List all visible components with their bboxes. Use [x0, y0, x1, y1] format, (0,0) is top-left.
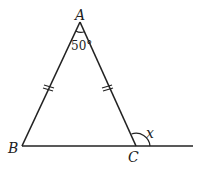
vertex-label-a: A — [73, 7, 85, 23]
vertex-label-b: B — [7, 140, 18, 156]
apex-angle-arc — [76, 31, 85, 32]
vertex-label-c: C — [128, 149, 139, 165]
exterior-angle-label: x — [146, 125, 154, 141]
apex-angle-label: 50° — [71, 39, 92, 53]
triangle-diagram: A B C 50° x — [0, 0, 202, 172]
